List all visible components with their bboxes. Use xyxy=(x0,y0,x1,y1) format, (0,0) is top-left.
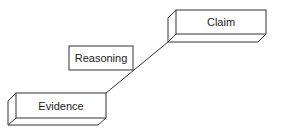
reasoning-label: Reasoning xyxy=(69,51,133,65)
evidence-label: Evidence xyxy=(16,99,106,113)
claim-label: Claim xyxy=(176,15,266,29)
